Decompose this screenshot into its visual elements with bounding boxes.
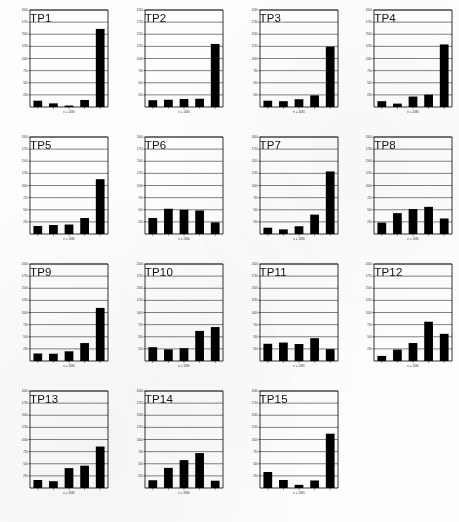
bar — [96, 179, 105, 234]
bar — [378, 101, 387, 107]
y-tick-label: 2000 — [137, 135, 143, 139]
y-tick-label: 250 — [23, 93, 28, 97]
y-tick-label: 500 — [23, 208, 28, 212]
y-tick-label: 750 — [138, 69, 143, 73]
y-tick-label: 1250 — [137, 171, 143, 175]
bar — [325, 434, 334, 488]
y-tick-label: 250 — [23, 220, 28, 224]
bar — [440, 218, 449, 234]
bar-series — [148, 209, 219, 236]
bar — [263, 101, 272, 107]
y-tick-label: 2000 — [366, 8, 372, 12]
y-tick-label: 1500 — [137, 286, 143, 290]
bar — [49, 481, 58, 488]
chart-panel: 25050075010001250150017502000n = 1580TP9 — [0, 254, 115, 381]
y-tick-label: 1250 — [366, 298, 372, 302]
y-tick-label: 1250 — [22, 171, 28, 175]
y-tick-label: 2000 — [366, 135, 372, 139]
bar — [148, 100, 157, 107]
y-tick-label: 1750 — [22, 20, 28, 24]
bar — [80, 100, 89, 107]
bar — [148, 347, 157, 361]
chart-panel: 25050075010001250150017502000n = 1580TP4 — [344, 0, 459, 127]
panel-title: TP12 — [374, 266, 402, 278]
panel-title: TP6 — [145, 139, 167, 151]
panel-title: TP9 — [30, 266, 52, 278]
y-tick-label: 1500 — [22, 159, 28, 163]
y-tick-label: 750 — [253, 450, 258, 454]
panel-title: TP11 — [260, 266, 287, 278]
y-tick-label: 250 — [253, 474, 258, 478]
chart-panel: 25050075010001250150017502000n = 1580TP7 — [230, 127, 345, 254]
bar — [424, 207, 433, 234]
y-tick-label: 1750 — [366, 274, 372, 278]
bar-series — [263, 171, 334, 235]
y-tick-label: 250 — [138, 347, 143, 351]
bar-series — [263, 47, 334, 109]
y-tick-label: 750 — [23, 450, 28, 454]
chart-panel: 25050075010001250150017502000n = 1580TP1… — [344, 254, 459, 381]
y-tick-label: 500 — [23, 335, 28, 339]
y-tick-label: 1750 — [366, 20, 372, 24]
y-tick-label: 2000 — [251, 389, 257, 393]
y-tick-label: 500 — [368, 208, 373, 212]
y-tick-label: 1750 — [137, 401, 143, 405]
bar — [378, 356, 387, 361]
bar — [294, 344, 303, 361]
bar — [263, 472, 272, 488]
bar-series — [33, 447, 104, 490]
bar — [263, 228, 272, 234]
y-tick-label: 1500 — [137, 159, 143, 163]
panel-title: TP14 — [145, 393, 173, 405]
bar — [195, 453, 204, 488]
bar-series — [263, 434, 334, 490]
bar — [65, 225, 74, 234]
bar — [279, 101, 288, 107]
chart-panel: 25050075010001250150017502000n = 1580TP3 — [230, 0, 345, 127]
y-tick-label: 1250 — [251, 298, 257, 302]
y-tick-label: 1250 — [137, 425, 143, 429]
y-tick-label: 750 — [23, 323, 28, 327]
bar — [195, 331, 204, 361]
bar — [325, 47, 334, 107]
y-tick-label: 1500 — [22, 413, 28, 417]
y-tick-label: 1750 — [22, 401, 28, 405]
bar — [211, 481, 220, 488]
panel-title: TP13 — [30, 393, 58, 405]
y-tick-label: 1500 — [251, 413, 257, 417]
bar — [33, 480, 42, 488]
y-tick-label: 500 — [368, 81, 373, 85]
x-axis-caption: n = 1580 — [178, 491, 190, 495]
bar-series — [148, 327, 219, 363]
bar — [195, 99, 204, 107]
y-tick-label: 250 — [368, 220, 373, 224]
y-tick-label: 1750 — [251, 274, 257, 278]
bar — [49, 354, 58, 361]
chart-panel: 25050075010001250150017502000n = 1580TP1 — [0, 0, 115, 127]
y-tick-label: 1000 — [251, 57, 257, 61]
bar — [310, 95, 319, 107]
y-tick-label: 500 — [253, 208, 258, 212]
bar — [49, 103, 58, 107]
x-axis-caption: n = 1580 — [293, 237, 305, 241]
y-tick-label: 2000 — [22, 8, 28, 12]
x-axis-caption: n = 1580 — [63, 491, 75, 495]
y-tick-label: 2000 — [22, 262, 28, 266]
bar-series — [378, 44, 449, 108]
bar — [409, 343, 418, 361]
chart-panel: 25050075010001250150017502000n = 1580TP1… — [115, 381, 230, 508]
x-axis-caption: n = 1580 — [408, 110, 420, 114]
bar-series — [148, 44, 219, 109]
chart-panel: 25050075010001250150017502000n = 1580TP6 — [115, 127, 230, 254]
bar — [263, 344, 272, 361]
bar — [310, 480, 319, 488]
y-tick-label: 1000 — [251, 438, 257, 442]
bar-series — [33, 308, 104, 363]
y-tick-label: 500 — [253, 81, 258, 85]
bar — [65, 468, 74, 488]
y-tick-label: 1500 — [22, 286, 28, 290]
y-tick-label: 1250 — [22, 425, 28, 429]
y-tick-label: 1000 — [137, 311, 143, 315]
bar — [33, 226, 42, 234]
bar — [195, 210, 204, 234]
